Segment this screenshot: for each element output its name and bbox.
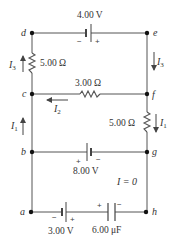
node-f bbox=[145, 92, 149, 96]
current-i1-left: I1 bbox=[10, 120, 18, 133]
battery-4v-pos: + bbox=[95, 37, 100, 46]
node-c bbox=[30, 92, 34, 96]
circuit-diagram: 4.00 V − + 5.00 Ω 3.00 Ω 5.00 Ω + − 8.00… bbox=[0, 0, 176, 246]
resistor-fg-label: 5.00 Ω bbox=[109, 118, 135, 128]
current-i3-left: I3 bbox=[8, 59, 16, 72]
capacitor-neg: − bbox=[117, 200, 122, 209]
battery-3v-neg: − bbox=[52, 213, 57, 222]
battery-8v-label: 8.00 V bbox=[73, 166, 99, 176]
node-b-label: b bbox=[21, 146, 26, 157]
capacitor: + − 6.00 μF bbox=[92, 200, 122, 235]
battery-8v-neg: − bbox=[96, 155, 101, 164]
battery-4v: 4.00 V − + bbox=[77, 10, 103, 46]
capacitor-label: 6.00 μF bbox=[92, 225, 121, 235]
node-h bbox=[144, 210, 148, 214]
battery-8v-pos: + bbox=[76, 157, 81, 166]
capacitor-pos: + bbox=[97, 201, 102, 210]
current-i3-right: I3 bbox=[156, 56, 164, 69]
battery-8v: + − 8.00 V bbox=[73, 143, 101, 176]
current-zero-label: I = 0 bbox=[116, 176, 137, 187]
node-a bbox=[29, 210, 33, 214]
current-i1-right: I1 bbox=[159, 117, 167, 130]
battery-3v-label: 3.00 V bbox=[48, 226, 74, 236]
resistor-cf-label: 3.00 Ω bbox=[75, 78, 101, 88]
node-f-label: f bbox=[152, 89, 156, 100]
resistor-fg: 5.00 Ω bbox=[109, 112, 150, 132]
node-g bbox=[145, 150, 149, 154]
node-g-label: g bbox=[152, 146, 157, 157]
battery-3v: − + 3.00 V bbox=[48, 202, 75, 236]
node-h-label: h bbox=[152, 206, 157, 217]
node-e-label: e bbox=[153, 27, 158, 38]
node-d bbox=[30, 31, 34, 35]
battery-4v-neg: − bbox=[77, 37, 82, 46]
battery-4v-label: 4.00 V bbox=[77, 10, 103, 20]
resistor-dc: 5.00 Ω bbox=[29, 53, 66, 73]
nodes: d e c f b g a h bbox=[20, 27, 158, 217]
node-d-label: d bbox=[21, 27, 27, 38]
battery-3v-pos: + bbox=[70, 215, 75, 224]
current-i2: I2 bbox=[53, 103, 61, 116]
node-b bbox=[30, 150, 34, 154]
node-e bbox=[145, 31, 149, 35]
node-a-label: a bbox=[20, 206, 25, 217]
resistor-dc-label: 5.00 Ω bbox=[40, 58, 66, 68]
node-c-label: c bbox=[22, 88, 27, 99]
